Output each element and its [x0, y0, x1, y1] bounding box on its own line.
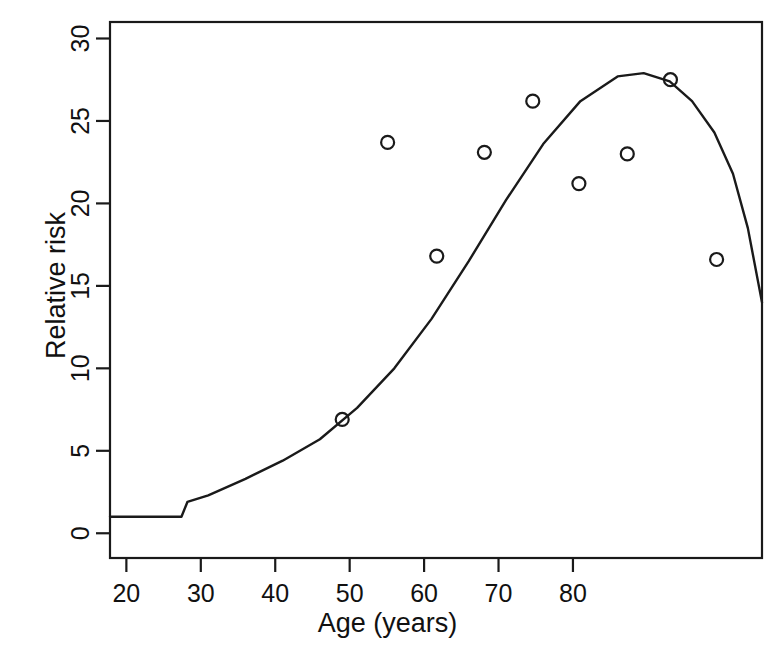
plot-box: [110, 22, 762, 558]
x-tick-label: 20: [112, 579, 140, 607]
y-tick-label: 5: [66, 444, 94, 458]
data-point-circle: [478, 146, 491, 159]
x-axis-ticks: 20304050607080: [112, 558, 586, 607]
data-point-circle: [381, 136, 394, 149]
chart-plot-area: 20304050607080 051015202530: [0, 0, 775, 659]
data-point-circle: [526, 95, 539, 108]
x-tick-label: 70: [485, 579, 513, 607]
x-tick-label: 30: [187, 579, 215, 607]
y-tick-label: 0: [66, 526, 94, 540]
y-tick-label: 30: [66, 25, 94, 53]
data-point-markers: [336, 73, 723, 426]
x-tick-label: 80: [559, 579, 587, 607]
fitted-curve: [110, 73, 762, 517]
x-axis-title: Age (years): [0, 608, 775, 639]
x-tick-label: 60: [410, 579, 438, 607]
data-point-circle: [430, 250, 443, 263]
x-tick-label: 40: [261, 579, 289, 607]
data-point-circle: [621, 147, 634, 160]
data-point-circle: [710, 253, 723, 266]
figure-canvas: 20304050607080 051015202530 Relative ris…: [0, 0, 775, 659]
x-tick-label: 50: [336, 579, 364, 607]
y-tick-label: 25: [66, 107, 94, 135]
y-axis-title: Relative risk: [41, 166, 72, 406]
data-point-circle: [572, 177, 585, 190]
y-axis-ticks: 051015202530: [66, 25, 110, 541]
